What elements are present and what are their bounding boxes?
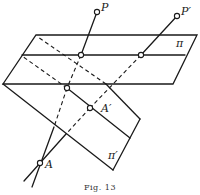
point-A — [37, 160, 42, 165]
projection-diagram: P P′ π A′ π′ A Fig. 13 — [0, 0, 200, 195]
plane-pi — [3, 35, 197, 84]
label-A-prime: A′ — [100, 102, 112, 115]
point-P-prime-on-pi — [138, 52, 143, 57]
ray-P-hidden — [67, 55, 81, 88]
label-pi: π — [175, 37, 184, 50]
ray-A-prime-hidden — [66, 108, 90, 134]
point-P-prime — [174, 13, 179, 18]
label-P-prime: P′ — [180, 5, 191, 18]
point-on-pi-prime-1 — [64, 85, 69, 90]
ray-P-prime-hidden — [90, 55, 141, 108]
label-A: A — [44, 158, 53, 171]
label-P: P — [100, 1, 109, 14]
pi-prime-right-edge — [113, 119, 140, 170]
figure-caption: Fig. 13 — [84, 183, 116, 192]
pi-prime-midline — [67, 88, 130, 138]
label-pi-prime: π′ — [107, 149, 118, 162]
plane-pi-prime — [3, 37, 140, 170]
ray-P — [81, 12, 97, 55]
ray-A-1 — [32, 127, 54, 187]
pi-prime-left-edge — [3, 84, 113, 170]
pi-prime-midline-hidden — [22, 56, 67, 88]
ray-A-upper-hidden — [54, 88, 67, 127]
pi-outline — [3, 35, 197, 84]
point-A-prime — [87, 105, 92, 110]
point-P — [94, 9, 99, 14]
point-P-on-pi — [78, 52, 83, 57]
